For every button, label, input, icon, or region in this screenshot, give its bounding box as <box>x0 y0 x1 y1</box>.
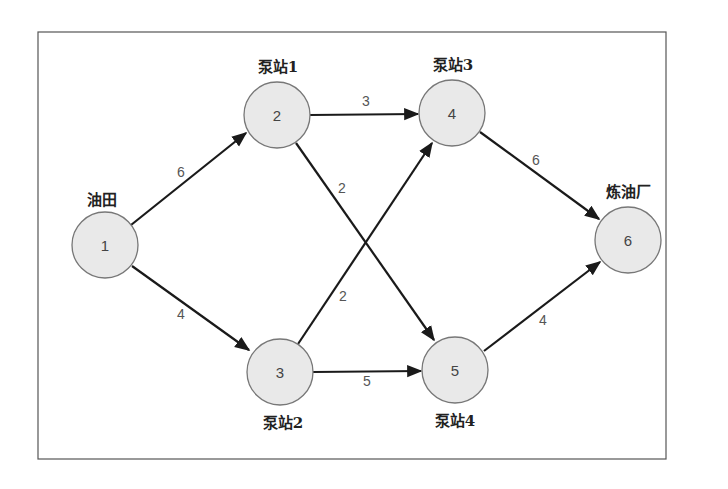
edge-4-6 <box>480 132 599 219</box>
weight-4-6: 6 <box>532 152 540 168</box>
edge-3-5 <box>313 371 421 372</box>
weight-2-5: 2 <box>338 180 346 196</box>
weight-2-4: 3 <box>362 93 370 109</box>
edge-2-4 <box>310 114 418 115</box>
node-number: 4 <box>448 105 456 122</box>
node-3: 3 泵站2 <box>247 339 313 432</box>
weight-3-4: 2 <box>339 288 347 304</box>
node-2: 2 泵站1 <box>244 58 310 148</box>
node-5: 5 泵站4 <box>422 337 488 430</box>
node-label: 泵站3 <box>433 56 473 74</box>
weight-3-5: 5 <box>363 373 371 389</box>
node-number: 1 <box>101 237 109 254</box>
weight-5-6: 4 <box>539 312 547 328</box>
node-label: 泵站2 <box>263 414 303 432</box>
node-label: 泵站1 <box>258 58 298 76</box>
node-6: 6 炼油厂 <box>595 183 661 273</box>
edge-1-2 <box>131 133 246 225</box>
node-number: 3 <box>276 364 284 381</box>
node-1: 1 油田 <box>72 191 138 278</box>
node-label: 泵站4 <box>435 412 475 430</box>
node-label: 炼油厂 <box>606 183 651 201</box>
node-label: 油田 <box>87 191 117 209</box>
node-number: 5 <box>451 362 459 379</box>
node-number: 6 <box>624 232 632 249</box>
edge-5-6 <box>484 262 600 351</box>
edge-1-3 <box>132 266 249 350</box>
node-number: 2 <box>273 107 281 124</box>
edges <box>131 114 600 372</box>
node-4: 4 泵站3 <box>419 56 485 146</box>
weight-1-2: 6 <box>177 164 185 180</box>
weight-1-3: 4 <box>177 306 185 322</box>
network-diagram: 6 4 3 2 2 5 6 4 1 油田 2 泵站1 3 泵站2 4 泵站3 5… <box>0 0 728 489</box>
